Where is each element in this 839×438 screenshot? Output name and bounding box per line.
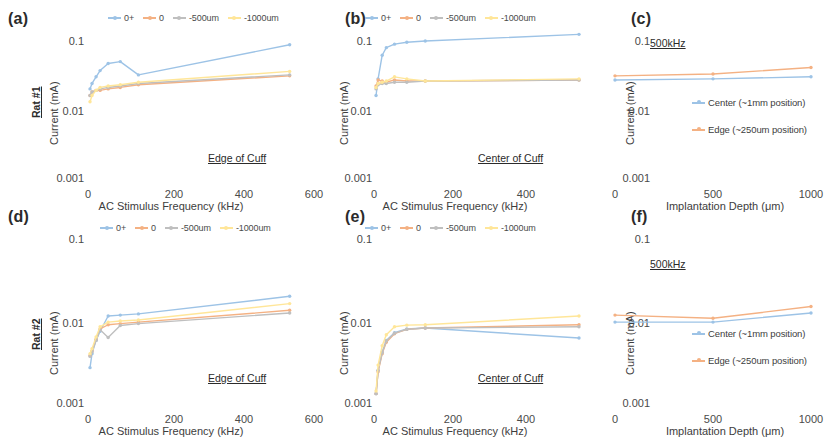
data-point xyxy=(385,333,388,336)
data-point xyxy=(106,84,109,87)
data-point xyxy=(393,325,396,328)
data-point xyxy=(90,82,93,85)
data-point xyxy=(88,87,91,90)
series-edge-250um-position- xyxy=(613,305,812,320)
data-point xyxy=(98,325,101,328)
data-point xyxy=(711,320,714,323)
plot-svg-d xyxy=(0,215,330,438)
plot-svg-e xyxy=(330,215,630,438)
data-point xyxy=(119,313,122,316)
data-point xyxy=(106,336,109,339)
plot-svg-a xyxy=(0,0,330,205)
panel-a: 0+ 0 -500um -1000um Current (mA) 0.1 0.0… xyxy=(0,0,330,205)
series-0- xyxy=(374,326,580,395)
data-point xyxy=(577,325,580,328)
data-point xyxy=(424,39,427,42)
data-point xyxy=(119,324,122,327)
data-point xyxy=(385,79,388,82)
data-point xyxy=(711,317,714,320)
data-point xyxy=(88,352,91,355)
data-point xyxy=(90,94,93,97)
data-point xyxy=(809,311,812,314)
data-point xyxy=(137,73,140,76)
data-point xyxy=(405,323,408,326)
data-point xyxy=(374,389,377,392)
data-point xyxy=(106,314,109,317)
data-point xyxy=(405,328,408,331)
data-point xyxy=(376,363,379,366)
data-point xyxy=(119,83,122,86)
data-point xyxy=(424,323,427,326)
data-point xyxy=(374,94,377,97)
data-point xyxy=(577,77,580,80)
data-point xyxy=(381,81,384,84)
panel-d: 0+ 0 -500um -1000um Current (mA) 0.1 0.0… xyxy=(0,215,330,438)
data-point xyxy=(424,79,427,82)
data-point xyxy=(381,344,384,347)
data-point xyxy=(119,60,122,63)
data-point xyxy=(393,81,396,84)
data-point xyxy=(137,81,140,84)
data-point xyxy=(393,75,396,78)
data-point xyxy=(385,46,388,49)
series-edge-250um-position- xyxy=(613,66,812,78)
data-point xyxy=(577,336,580,339)
data-point xyxy=(288,43,291,46)
data-point xyxy=(613,320,616,323)
data-point xyxy=(405,41,408,44)
data-point xyxy=(288,295,291,298)
data-point xyxy=(809,66,812,69)
data-point xyxy=(577,33,580,36)
data-point xyxy=(106,62,109,65)
data-point xyxy=(288,302,291,305)
data-point xyxy=(376,82,379,85)
data-point xyxy=(613,78,616,81)
data-point xyxy=(577,314,580,317)
data-point xyxy=(809,75,812,78)
series--1000um xyxy=(88,302,291,355)
data-point xyxy=(711,77,714,80)
data-point xyxy=(90,347,93,350)
panel-f: Current (mA) 0.1 0.01 0.001 0 500 1000 I… xyxy=(600,215,839,438)
series-0- xyxy=(88,295,291,370)
data-point xyxy=(137,322,140,325)
plot-svg-f xyxy=(600,215,839,438)
panel-e: 0+ 0 -500um -1000um Current (mA) 0.1 0.0… xyxy=(330,215,630,438)
data-point xyxy=(613,313,616,316)
panel-b: 0+ 0 -500um -1000um Current (mA) 0.1 0.0… xyxy=(330,0,630,205)
data-point xyxy=(106,320,109,323)
plot-svg-c xyxy=(600,0,839,205)
data-point xyxy=(88,100,91,103)
data-point xyxy=(809,305,812,308)
data-point xyxy=(374,86,377,89)
data-point xyxy=(405,77,408,80)
data-point xyxy=(288,73,291,76)
data-point xyxy=(137,318,140,321)
data-point xyxy=(393,42,396,45)
plot-svg-b xyxy=(330,0,630,205)
data-point xyxy=(613,74,616,77)
panel-c: Current (mA) 0.1 0.01 0.001 0 500 1000 I… xyxy=(600,0,839,205)
series-0- xyxy=(374,33,580,98)
series-0 xyxy=(374,323,580,395)
data-point xyxy=(98,69,101,72)
data-point xyxy=(405,81,408,84)
data-point xyxy=(98,86,101,89)
data-point xyxy=(94,75,97,78)
data-point xyxy=(288,311,291,314)
data-point xyxy=(94,89,97,92)
data-point xyxy=(381,54,384,57)
data-point xyxy=(711,72,714,75)
series-0- xyxy=(88,43,291,90)
data-point xyxy=(88,366,91,369)
data-point xyxy=(94,335,97,338)
data-point xyxy=(393,332,396,335)
data-point xyxy=(376,78,379,81)
data-point xyxy=(288,70,291,73)
data-point xyxy=(119,319,122,322)
data-point xyxy=(424,326,427,329)
data-point xyxy=(137,312,140,315)
series-center-1mm-position- xyxy=(613,75,812,82)
